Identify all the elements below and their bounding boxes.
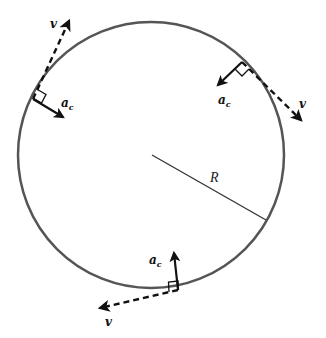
acceleration-label: ac (61, 96, 74, 112)
velocity-arrow (33, 21, 69, 99)
radius-line (152, 155, 266, 220)
velocity-label: v (50, 17, 58, 31)
point-bottom: v ac (100, 253, 179, 329)
circular-path (18, 22, 284, 288)
velocity-label: v (299, 97, 307, 111)
acceleration-arrow (33, 99, 63, 117)
acceleration-arrow (218, 62, 242, 85)
circular-motion-diagram: R v ac v ac v ac (0, 0, 326, 338)
acceleration-label: ac (149, 253, 162, 269)
acceleration-label: ac (218, 93, 231, 109)
velocity-label: v (105, 315, 113, 329)
velocity-arrow (100, 290, 178, 308)
radius-label: R (209, 170, 219, 185)
point-upper-left: v ac (33, 17, 74, 117)
velocity-arrow (242, 62, 301, 120)
right-angle-marker (235, 69, 249, 76)
point-upper-right: v ac (218, 62, 307, 120)
